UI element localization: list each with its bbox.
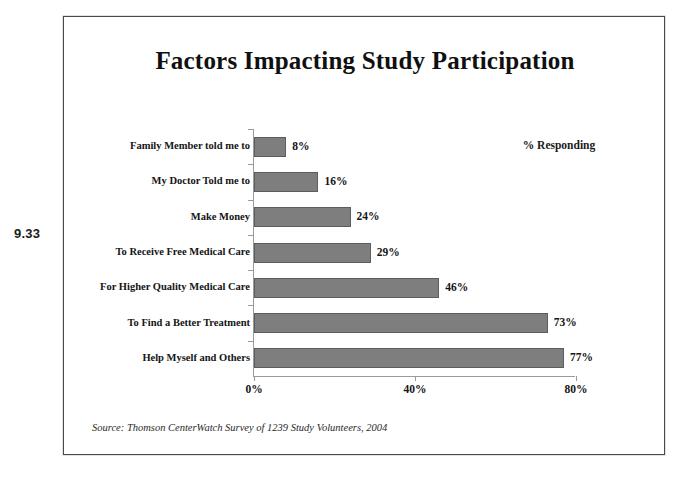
y-axis-tick [248,164,253,165]
y-axis-tick [248,270,253,271]
bar [254,137,286,157]
x-axis-tick-label: 0% [224,383,284,395]
bar [254,172,318,192]
y-axis-tick [248,341,253,342]
category-label: To Find a Better Treatment [84,317,250,330]
source-note: Source: Thomson CenterWatch Survey of 12… [92,422,387,433]
bar-chart-plot: Family Member told me to8%My Doctor Told… [64,17,666,456]
x-axis-tick [576,376,577,381]
category-label: Help Myself and Others [84,352,250,365]
y-axis-tick [248,129,253,130]
bar-value-label: 16% [324,175,347,187]
category-label: Family Member told me to [84,140,250,153]
bar [254,313,548,333]
bar-value-label: 24% [357,210,380,222]
bar-value-label: 8% [292,140,309,152]
y-axis-tick [248,305,253,306]
bar [254,278,439,298]
figure-number: 9.33 [14,226,40,241]
figure-frame: Factors Impacting Study Participation % … [63,16,665,455]
x-axis-tick [415,376,416,381]
bar-value-label: 73% [554,316,577,328]
x-axis-tick-label: 40% [385,383,445,395]
x-axis-line [253,376,575,377]
category-label: Make Money [84,211,250,224]
category-label: To Receive Free Medical Care [84,246,250,259]
x-axis-tick-label: 80% [546,383,606,395]
bar-value-label: 46% [445,281,468,293]
bar-value-label: 29% [377,246,400,258]
x-axis-tick [254,376,255,381]
bar [254,348,564,368]
bar [254,243,371,263]
bar [254,207,351,227]
y-axis-tick [248,200,253,201]
category-label: For Higher Quality Medical Care [84,281,250,294]
category-label: My Doctor Told me to [84,175,250,188]
y-axis-tick [248,235,253,236]
bar-value-label: 77% [570,351,593,363]
